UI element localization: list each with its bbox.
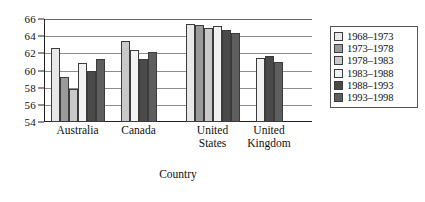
- bar-groups: [46, 19, 312, 122]
- y-tick-label: 58: [25, 82, 36, 94]
- bar: [130, 50, 139, 122]
- bar-group-united-states: [186, 19, 240, 122]
- legend-label: 1973–1978: [347, 43, 393, 54]
- bar-group-canada: [121, 19, 157, 122]
- legend: 1968–19731973–19781978–19831983–19881988…: [330, 26, 418, 108]
- bar: [213, 26, 222, 122]
- legend-item-1968-1973[interactable]: 1968–1973: [334, 30, 413, 42]
- bar: [87, 71, 96, 123]
- bar: [148, 52, 157, 122]
- x-axis-labels: AustraliaCanadaUnitedStatesUnitedKingdom: [0, 124, 320, 162]
- bar-group-australia: [51, 19, 105, 122]
- y-tick-label: 56: [25, 99, 36, 111]
- bar: [121, 41, 130, 122]
- bar: [60, 77, 69, 122]
- legend-swatch-icon: [334, 44, 343, 53]
- bar: [186, 24, 195, 122]
- legend-item-1993-1998[interactable]: 1993–1998: [334, 91, 413, 103]
- legend-item-1978-1983[interactable]: 1978–1983: [334, 55, 413, 67]
- bar: [231, 33, 240, 122]
- x-label-line: United: [224, 124, 314, 137]
- y-tick-label: 64: [25, 30, 36, 42]
- legend-item-1988-1993[interactable]: 1988–1993: [334, 79, 413, 91]
- bar: [222, 30, 231, 122]
- legend-label: 1983–1988: [347, 68, 393, 79]
- bar: [78, 63, 87, 122]
- legend-item-1983-1988[interactable]: 1983–1988: [334, 67, 413, 79]
- legend-label: 1988–1993: [347, 80, 393, 91]
- legend-label: 1968–1973: [347, 31, 393, 42]
- bar: [256, 58, 265, 122]
- x-axis-title: Country: [44, 168, 312, 180]
- x-label-united-kingdom: UnitedKingdom: [224, 124, 314, 150]
- bar: [265, 56, 274, 122]
- bar: [51, 48, 60, 122]
- bar: [274, 62, 283, 122]
- legend-label: 1978–1983: [347, 55, 393, 66]
- y-tick-label: 60: [25, 65, 36, 77]
- bar-group-united-kingdom: [256, 19, 283, 122]
- y-tick-label: 66: [25, 13, 36, 25]
- y-tick-label: 62: [25, 47, 36, 59]
- legend-label: 1993–1998: [347, 92, 393, 103]
- bar: [69, 89, 78, 122]
- legend-swatch-icon: [334, 56, 343, 65]
- chart-container: 66646260585654 AustraliaCanadaUnitedStat…: [0, 0, 425, 202]
- bar: [139, 59, 148, 122]
- bar: [204, 28, 213, 122]
- legend-swatch-icon: [334, 32, 343, 41]
- legend-item-1973-1978[interactable]: 1973–1978: [334, 42, 413, 54]
- y-axis: 66646260585654: [0, 19, 44, 123]
- bar: [195, 25, 204, 122]
- bar: [96, 59, 105, 122]
- legend-swatch-icon: [334, 93, 343, 102]
- legend-swatch-icon: [334, 69, 343, 78]
- x-label-line: Kingdom: [224, 137, 314, 150]
- legend-swatch-icon: [334, 81, 343, 90]
